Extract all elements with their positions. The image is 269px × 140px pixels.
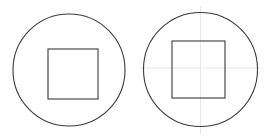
figure-left-group bbox=[13, 14, 125, 126]
left-inscribed-square bbox=[48, 49, 98, 99]
figure-right-group bbox=[140, 6, 262, 134]
left-circle-outline bbox=[13, 14, 125, 126]
geometry-figures-svg bbox=[0, 0, 269, 140]
drawing-canvas bbox=[0, 0, 269, 140]
right-inscribed-square bbox=[172, 41, 225, 98]
